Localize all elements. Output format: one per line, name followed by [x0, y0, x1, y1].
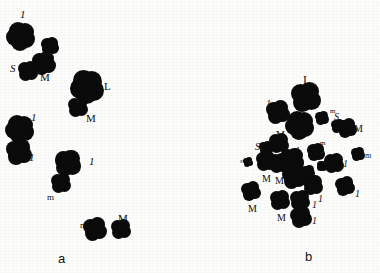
blob-lobe: [74, 97, 87, 110]
blob-lobe: [42, 43, 54, 55]
blob-core: [334, 122, 343, 131]
blob-core: [12, 121, 29, 138]
blob-core: [260, 155, 272, 167]
blob-lobe: [62, 150, 79, 167]
blob-lobe: [32, 53, 47, 68]
blob-lobe: [284, 174, 299, 189]
blob-lobe: [315, 112, 324, 121]
blob-core: [273, 157, 285, 169]
blob-lobe: [270, 160, 283, 173]
chromosome-blob: [290, 206, 311, 227]
panel-b-letter: b: [305, 250, 312, 263]
blob-lobe: [310, 181, 323, 194]
blob-lobe: [317, 161, 324, 168]
blob-lobe: [268, 109, 283, 124]
size-label: S: [334, 112, 339, 122]
blob-core: [13, 28, 30, 45]
blob-lobe: [47, 42, 59, 54]
size-label: 1: [318, 194, 323, 204]
blob-lobe: [259, 142, 268, 151]
blob-core: [295, 211, 308, 224]
size-label: 1: [31, 112, 37, 123]
blob-lobe: [52, 180, 65, 193]
blob-lobe: [248, 187, 260, 199]
blob-lobe: [290, 191, 303, 204]
blob-lobe: [247, 160, 253, 166]
blob-lobe: [307, 144, 319, 156]
chromosome-blob: [336, 177, 355, 196]
blob-lobe: [296, 206, 310, 220]
size-label: M: [275, 176, 284, 186]
blob-lobe: [19, 68, 32, 81]
blob-lobe: [16, 123, 34, 141]
blob-core: [311, 147, 322, 158]
blob-lobe: [264, 145, 273, 154]
blob-lobe: [81, 71, 102, 92]
blob-lobe: [320, 115, 329, 124]
chromosome-blob: [256, 151, 276, 171]
blob-lobe: [260, 146, 269, 155]
blob-core: [60, 155, 76, 171]
blob-lobe: [275, 107, 290, 122]
size-label: M: [40, 72, 50, 83]
blob-lobe: [302, 91, 322, 111]
blob-lobe: [56, 159, 73, 176]
size-label: 1: [89, 156, 95, 167]
chromosome-blob: [7, 140, 32, 165]
blob-lobe: [10, 126, 28, 144]
blob-lobe: [83, 80, 104, 101]
blob-lobe: [46, 37, 58, 49]
blob-lobe: [118, 225, 131, 238]
blob-lobe: [246, 157, 252, 163]
blob-lobe: [337, 183, 349, 195]
blob-lobe: [282, 167, 297, 182]
chromosome-blob: [6, 115, 33, 142]
blob-core: [37, 56, 51, 70]
blob-lobe: [263, 141, 272, 150]
blob-lobe: [277, 196, 290, 209]
blob-lobe: [70, 78, 91, 99]
blob-core: [354, 150, 363, 159]
blob-lobe: [243, 188, 255, 200]
blob-core: [318, 114, 327, 123]
blob-lobe: [247, 181, 259, 193]
blob-lobe: [24, 61, 37, 74]
blob-lobe: [92, 224, 107, 239]
chromosome-blob: [18, 61, 38, 81]
size-label: M: [118, 213, 128, 224]
blob-lobe: [285, 117, 303, 135]
size-label: 1: [266, 99, 271, 109]
blob-lobe: [290, 122, 308, 140]
size-label: S: [10, 63, 16, 74]
chromosome-blob: [260, 142, 273, 155]
blob-core: [245, 185, 257, 197]
blob-lobe: [269, 154, 282, 167]
blob-core: [72, 101, 84, 113]
blob-core: [292, 117, 309, 134]
blob-lobe: [57, 173, 70, 186]
size-label: 1: [312, 216, 317, 226]
size-label: M: [262, 174, 271, 184]
blob-lobe: [6, 28, 24, 46]
chromosome-blob: [84, 218, 106, 240]
blob-lobe: [6, 141, 22, 157]
blob-lobe: [296, 119, 314, 137]
blob-lobe: [313, 148, 325, 160]
blob-lobe: [58, 179, 71, 192]
blob-core: [319, 163, 325, 169]
size-label: M: [277, 213, 286, 223]
blob-lobe: [351, 148, 360, 157]
blob-lobe: [11, 33, 29, 51]
chromosome-blob: [351, 147, 365, 161]
blob-lobe: [270, 191, 283, 204]
blob-lobe: [330, 153, 343, 166]
blob-core: [341, 122, 353, 134]
size-label: L: [303, 74, 310, 86]
size-label: 1: [20, 9, 26, 20]
figure-canvas: 1SMLM111mmM a L1LmSMMSm1sMMs1mm1111MM1 b: [0, 0, 380, 273]
blob-core: [11, 144, 26, 159]
blob-lobe: [341, 176, 353, 188]
blob-lobe: [320, 164, 327, 171]
blob-lobe: [317, 164, 324, 171]
blob-lobe: [335, 178, 347, 190]
